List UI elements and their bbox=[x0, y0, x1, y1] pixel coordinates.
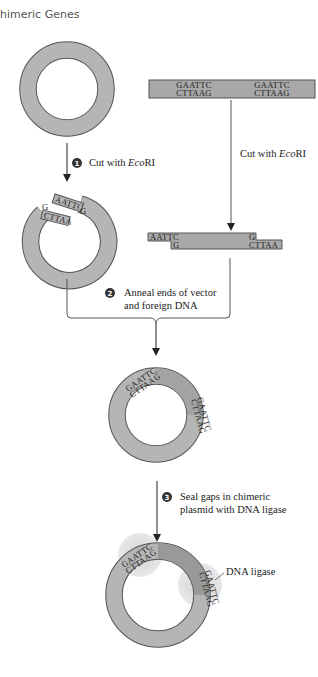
svg-text:CTTAAG: CTTAAG bbox=[176, 88, 212, 98]
svg-text:G: G bbox=[80, 206, 86, 216]
annealed-chimeric-plasmid: GAATTC CTTAAG GAATTC CTTAAG bbox=[117, 365, 214, 454]
svg-text:3: 3 bbox=[165, 494, 170, 502]
cut-foreign-fragment: AATTC G G CTTAA bbox=[148, 232, 282, 250]
svg-text:and foreign DNA: and foreign DNA bbox=[124, 300, 198, 311]
svg-text:Cut with EcoRI: Cut with EcoRI bbox=[89, 157, 155, 168]
intact-plasmid bbox=[28, 50, 106, 128]
svg-text:G: G bbox=[42, 202, 48, 212]
foreign-dna-segment: GAATTC CTTAAG GAATTC CTTAAG bbox=[149, 80, 315, 98]
svg-text:CTTAAG: CTTAAG bbox=[254, 88, 290, 98]
sealed-chimeric-plasmid: GAATTC CTTAAG GAATTC CTTAAG bbox=[114, 533, 222, 639]
svg-text:CTTAA: CTTAA bbox=[43, 210, 74, 227]
svg-text:plasmid with DNA ligase: plasmid with DNA ligase bbox=[180, 504, 287, 515]
step-2-label: 2 Anneal ends of vector and foreign DNA bbox=[105, 287, 217, 311]
svg-text:Anneal ends of vector: Anneal ends of vector bbox=[124, 287, 217, 298]
svg-text:CTTAA: CTTAA bbox=[249, 240, 279, 250]
svg-text:1: 1 bbox=[75, 160, 80, 168]
chimeric-plasmid-diagram: 1 Cut with EcoRI GAATTC CTTAAG GAATTC CT… bbox=[0, 0, 318, 677]
foreign-cut-label: Cut with EcoRI bbox=[240, 148, 306, 159]
ligase-label: DNA ligase bbox=[226, 566, 276, 577]
svg-text:2: 2 bbox=[108, 290, 113, 298]
svg-text:Seal gaps in chimeric: Seal gaps in chimeric bbox=[180, 491, 270, 502]
step-1-label: 1 Cut with EcoRI bbox=[72, 157, 155, 168]
step-3-label: 3 Seal gaps in chimeric plasmid with DNA… bbox=[162, 491, 287, 515]
cut-plasmid: AATTC G CTTAA G bbox=[31, 194, 109, 281]
svg-text:G: G bbox=[173, 240, 179, 250]
